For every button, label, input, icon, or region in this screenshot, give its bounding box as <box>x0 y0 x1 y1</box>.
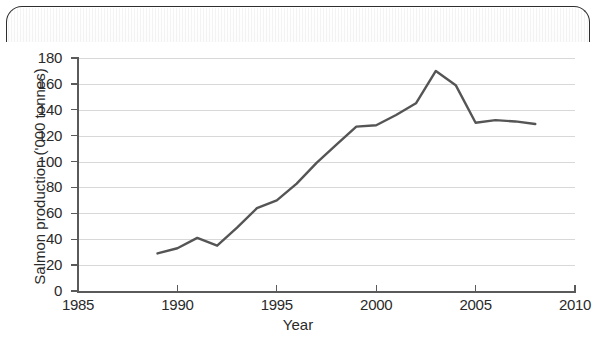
y-axis-title: Salmon production ('000 tonnes) <box>31 52 48 302</box>
x-axis-tick-label: 2000 <box>346 296 406 313</box>
x-axis-tick-label: 2010 <box>545 296 596 313</box>
x-axis-tick <box>574 285 575 292</box>
y-axis-tick <box>71 83 78 84</box>
x-axis-title: Year <box>0 316 596 333</box>
gridline <box>78 136 575 137</box>
gridline <box>78 187 575 188</box>
x-axis-tick-label: 1990 <box>147 296 207 313</box>
y-axis-tick <box>71 187 78 188</box>
y-axis-tick <box>71 239 78 240</box>
gridline <box>78 213 575 214</box>
y-axis-tick <box>71 264 78 265</box>
x-axis-tick <box>276 285 277 292</box>
gridline <box>78 84 575 85</box>
x-axis-tick <box>376 285 377 292</box>
x-axis-tick-label: 1985 <box>48 296 108 313</box>
y-axis-tick <box>71 213 78 214</box>
x-axis-tick <box>77 285 78 292</box>
plot-area <box>78 58 575 291</box>
x-axis-tick-label: 1995 <box>247 296 307 313</box>
x-axis-tick <box>177 285 178 292</box>
gridline <box>78 265 575 266</box>
gridline <box>78 110 575 111</box>
x-axis-tick <box>475 285 476 292</box>
gridline <box>78 58 575 59</box>
gridline <box>78 162 575 163</box>
x-axis-tick-label: 2005 <box>446 296 506 313</box>
x-axis-line <box>77 291 576 293</box>
line-chart: 020406080100120140160180 198519901995200… <box>0 0 596 341</box>
y-axis-tick <box>71 57 78 58</box>
y-axis-tick <box>71 109 78 110</box>
y-axis-line <box>77 57 79 292</box>
gridline <box>78 239 575 240</box>
y-axis-tick <box>71 135 78 136</box>
y-axis-tick <box>71 161 78 162</box>
